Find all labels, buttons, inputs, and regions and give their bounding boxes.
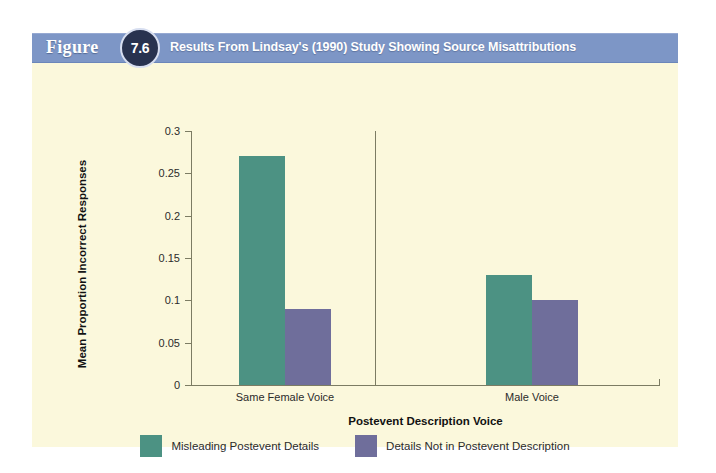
figure-number-badge: 7.6 — [120, 28, 160, 68]
bar — [239, 156, 285, 385]
bar — [285, 309, 331, 385]
x-axis-title: Postevent Description Voice — [191, 415, 660, 427]
legend-swatch — [140, 435, 162, 457]
x-axis-line — [191, 385, 660, 386]
x-axis-category-label: Same Female Voice — [195, 391, 375, 403]
legend-label: Details Not in Postevent Description — [386, 440, 569, 452]
legend-item: Details Not in Postevent Description — [355, 435, 569, 457]
legend-swatch — [355, 435, 377, 457]
legend-label: Misleading Postevent Details — [171, 440, 319, 452]
figure-number-text: 7.6 — [131, 40, 150, 56]
legend-item: Misleading Postevent Details — [140, 435, 319, 457]
x-axis-category-label: Male Voice — [442, 391, 622, 403]
figure-header-banner: Figure 7.6 Results From Lindsay's (1990)… — [32, 33, 678, 63]
bar — [532, 300, 578, 385]
chart-legend: Misleading Postevent DetailsDetails Not … — [32, 435, 678, 457]
bar — [486, 275, 532, 385]
bars-layer — [32, 131, 678, 385]
figure-title: Results From Lindsay's (1990) Study Show… — [170, 40, 670, 54]
figure-label: Figure — [46, 37, 98, 58]
figure-panel: Figure 7.6 Results From Lindsay's (1990)… — [32, 33, 678, 447]
y-axis-tick — [185, 385, 191, 386]
chart-plot-area: 00.050.10.150.20.250.3 Mean Proportion I… — [32, 63, 678, 447]
